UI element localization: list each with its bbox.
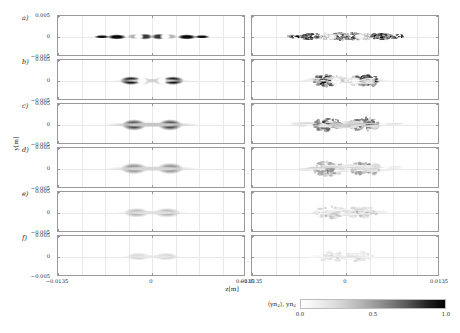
density-blob — [383, 34, 387, 36]
density-blob — [329, 168, 333, 174]
density-blob — [374, 80, 387, 82]
density-blob — [313, 37, 318, 39]
density-blob — [342, 38, 344, 41]
density-blob — [359, 34, 363, 36]
density-blob — [324, 37, 327, 39]
density-blob — [294, 37, 298, 38]
heatmap-panel-a-singleshot — [251, 15, 439, 56]
y-tick-mark — [242, 60, 244, 61]
density-blob — [321, 163, 326, 168]
y-tick-mark — [242, 148, 244, 149]
density-blob — [325, 78, 329, 80]
density-blob — [288, 36, 290, 37]
density-blob — [357, 211, 363, 214]
density-blob — [344, 35, 347, 37]
density-blob — [371, 33, 377, 35]
density-blob — [337, 125, 343, 127]
density-blob — [290, 35, 293, 36]
y-tick-mark — [58, 213, 60, 214]
density-blob — [357, 212, 368, 214]
density-blob — [358, 166, 378, 168]
density-blob — [331, 121, 337, 125]
density-blob — [340, 79, 343, 82]
density-blob — [349, 32, 352, 34]
density-blob — [350, 84, 354, 86]
density-blob — [378, 33, 382, 35]
density-blob — [320, 35, 322, 37]
density-blob — [328, 84, 332, 87]
density-blob — [302, 35, 304, 36]
density-blob — [331, 78, 333, 80]
density-blob — [334, 215, 339, 217]
density-blob — [341, 255, 345, 257]
density-blob — [326, 80, 329, 83]
density-blob — [351, 253, 358, 256]
density-blob — [96, 165, 207, 172]
density-blob — [361, 35, 363, 37]
density-blob — [357, 36, 361, 38]
density-blob — [356, 35, 359, 38]
density-blob — [335, 171, 342, 176]
y-tick-label: 0.005 — [24, 232, 50, 238]
density-blob — [300, 38, 304, 39]
y-tick-mark — [58, 236, 60, 237]
y-tick-mark — [252, 192, 254, 193]
x-tick-mark — [152, 16, 153, 18]
density-blob — [375, 35, 380, 37]
density-blob — [358, 169, 366, 174]
density-blob — [361, 37, 363, 39]
density-blob — [328, 35, 333, 38]
density-blob — [351, 258, 358, 260]
density-blob — [301, 37, 304, 38]
density-blob — [322, 166, 343, 168]
density-blob — [324, 36, 328, 39]
density-blob — [307, 36, 310, 37]
density-blob — [366, 117, 370, 122]
density-blob — [354, 128, 357, 131]
density-blob — [297, 36, 300, 37]
density-blob — [322, 122, 333, 123]
density-blob — [358, 33, 361, 34]
density-blob — [362, 84, 366, 87]
density-blob — [352, 162, 358, 168]
density-blob — [339, 36, 342, 38]
density-blob — [370, 34, 375, 36]
density-blob — [313, 36, 317, 38]
density-blob — [367, 167, 370, 170]
density-blob — [376, 212, 390, 213]
density-blob — [367, 209, 373, 214]
density-blob — [318, 36, 323, 38]
density-blob — [319, 82, 324, 85]
density-blob — [338, 255, 341, 258]
density-blob — [327, 122, 347, 124]
density-blob — [322, 212, 325, 216]
density-blob — [356, 123, 359, 127]
density-blob — [351, 37, 356, 40]
density-blob — [376, 37, 379, 39]
density-blob — [343, 34, 345, 37]
density-blob — [372, 34, 377, 36]
density-blob — [362, 120, 367, 125]
density-blob — [361, 38, 363, 40]
density-blob — [313, 78, 319, 82]
density-blob — [345, 256, 349, 258]
density-blob — [365, 74, 371, 78]
density-blob — [385, 35, 390, 37]
density-blob — [328, 167, 334, 170]
density-blob — [336, 76, 338, 79]
density-blob — [374, 79, 380, 83]
density-blob — [360, 76, 366, 78]
density-blob — [345, 35, 349, 38]
density-blob — [317, 35, 321, 36]
density-blob — [386, 167, 404, 169]
density-blob — [354, 162, 360, 165]
density-blob — [361, 212, 366, 216]
density-blob — [353, 36, 355, 39]
density-blob — [382, 36, 385, 38]
y-tick-mark — [58, 192, 60, 193]
density-blob — [326, 124, 330, 126]
density-blob — [334, 77, 337, 80]
density-blob — [378, 169, 394, 172]
density-blob — [363, 82, 375, 83]
density-blob — [353, 167, 361, 171]
